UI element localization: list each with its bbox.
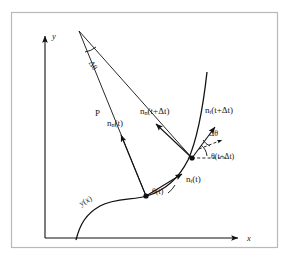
radius-label: P: [95, 108, 100, 118]
point-t-plus-dt: [189, 155, 194, 160]
y-axis-label: y: [51, 31, 56, 41]
figure-container: y x y(x) Δθ P nn(t) nn(t+Δ: [0, 0, 292, 259]
normal-vector-t: [121, 135, 146, 196]
radius-leg-t-plus-dt: [79, 31, 192, 158]
normal-t-plus-dt-label: nn(t+Δt): [140, 106, 169, 117]
tangent-t-plus-dt-label: nt(t+Δt): [205, 105, 233, 116]
curve-yx: [76, 72, 207, 240]
geometry-diagram: y x y(x) Δθ P nn(t) nn(t+Δ: [0, 0, 292, 259]
theta-t-arc: [168, 185, 175, 193]
normal-t-label: nn(t): [107, 118, 123, 129]
tangent-vector-t-group: θ(t) nt(t): [146, 174, 201, 196]
normal-vector-t-plus-dt-group: nn(t+Δt): [140, 106, 192, 158]
delta-theta-arc: [203, 140, 210, 146]
normal-vector-t-plus-dt: [156, 124, 192, 158]
x-axis-label: x: [246, 233, 251, 243]
curve-label: y(x): [77, 194, 93, 209]
axes-group: y x: [45, 31, 251, 243]
tangent-t-label: nt(t): [186, 174, 201, 185]
normal-vector-t-group: nn(t): [107, 118, 146, 196]
theta-t-label: θ(t): [152, 187, 164, 196]
curve-group: y(x): [76, 72, 207, 240]
tangent-vector-t-plus-dt-group: Δθ θ(t+Δt) nt(t+Δt): [192, 105, 235, 161]
apex-delta-theta-label: Δθ: [87, 59, 99, 72]
point-t: [143, 193, 148, 198]
figure-border: [12, 13, 278, 248]
delta-theta-tangents-label: Δθ: [209, 129, 218, 138]
theta-t-plus-dt-label: θ(t+Δt): [211, 152, 235, 161]
